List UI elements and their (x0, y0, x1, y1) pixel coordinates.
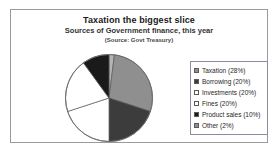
legend-swatch-investments (194, 90, 199, 95)
page-title: Taxation the biggest slice (11, 15, 267, 26)
legend-label-taxation: Taxation (28%) (202, 67, 245, 75)
list-item[interactable]: Product sales (10%) (194, 109, 265, 120)
chart-title-block: Taxation the biggest slice Sources of Go… (11, 15, 267, 45)
legend-label-product-sales: Product sales (10%) (202, 111, 261, 119)
legend-label-fines: Fines (20%) (202, 100, 237, 108)
list-item[interactable]: Other (2%) (194, 120, 265, 131)
legend-swatch-borrowing (194, 79, 199, 84)
legend-label-borrowing: Borrowing (20%) (202, 78, 250, 86)
list-item[interactable]: Taxation (28%) (194, 65, 265, 76)
pie-chart-svg (63, 52, 159, 144)
list-item[interactable]: Borrowing (20%) (194, 76, 265, 87)
legend-label-investments: Investments (20%) (202, 89, 256, 97)
legend-swatch-fines (194, 101, 199, 106)
pie-chart (63, 52, 159, 144)
list-item[interactable]: Investments (20%) (194, 87, 265, 98)
legend-swatch-taxation (194, 68, 199, 73)
list-item[interactable]: Fines (20%) (194, 98, 265, 109)
chart-source-note: (Source: Govt Treasury) (11, 36, 267, 45)
legend-label-other: Other (2%) (202, 122, 234, 130)
legend-swatch-product-sales (194, 112, 199, 117)
chart-legend: Taxation (28%) Borrowing (20%) Investmen… (190, 61, 268, 135)
chart-subtitle: Sources of Government finance, this year (11, 26, 267, 36)
legend-swatch-other (194, 123, 199, 128)
chart-frame: Taxation the biggest slice Sources of Go… (10, 9, 268, 143)
